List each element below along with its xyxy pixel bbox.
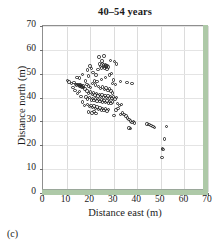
data-point (114, 83, 117, 86)
data-point (107, 65, 110, 68)
data-point (160, 156, 163, 159)
data-point (129, 127, 132, 130)
data-point (81, 100, 84, 103)
data-point (116, 107, 119, 110)
data-point (97, 55, 100, 58)
data-point (85, 83, 88, 86)
x-tick-label: 20 (77, 194, 101, 204)
data-point (111, 100, 114, 103)
data-point (130, 82, 133, 85)
scatter-chart-figure: 40–54 years 010203040506070 010203040506… (0, 0, 222, 250)
data-point (73, 89, 76, 92)
data-point (100, 78, 103, 81)
panel-caption: (c) (7, 228, 18, 239)
x-axis-label: Distance east (m) (42, 207, 208, 218)
data-point (163, 137, 166, 140)
data-point (104, 76, 107, 79)
data-point (119, 80, 122, 83)
data-point (79, 95, 82, 98)
data-point (87, 74, 90, 77)
accent-band-right (203, 25, 208, 195)
data-point (125, 81, 128, 84)
data-point (90, 67, 93, 70)
data-point (76, 92, 79, 95)
data-point (112, 114, 115, 117)
data-point (94, 83, 97, 86)
y-axis-label: Distance north (m) (16, 16, 27, 196)
data-point (153, 126, 156, 129)
data-point (115, 96, 118, 99)
data-point (165, 125, 168, 128)
x-tick-label: 10 (54, 194, 78, 204)
data-point (115, 62, 118, 65)
data-point (109, 59, 112, 62)
x-tick-label: 50 (148, 194, 172, 204)
data-point (78, 76, 81, 79)
gridline-vertical (208, 26, 209, 192)
chart-title: 40–54 years (42, 6, 208, 17)
data-point (120, 103, 123, 106)
data-point (83, 87, 86, 90)
data-point (71, 86, 74, 89)
data-point (161, 148, 164, 151)
x-tick-label: 70 (195, 194, 219, 204)
data-point (87, 110, 90, 113)
data-point (86, 68, 89, 71)
data-points-layer (43, 26, 207, 192)
data-point (102, 54, 105, 57)
x-tick-label: 30 (101, 194, 125, 204)
data-point (108, 73, 111, 76)
data-point (111, 91, 114, 94)
data-point (94, 73, 97, 76)
x-tick-label: 40 (124, 194, 148, 204)
data-point (107, 108, 110, 111)
data-point (94, 112, 97, 115)
data-point (83, 104, 86, 107)
x-tick-label: 60 (171, 194, 195, 204)
data-point (81, 73, 84, 76)
plot-area (42, 25, 207, 192)
data-point (133, 121, 136, 124)
